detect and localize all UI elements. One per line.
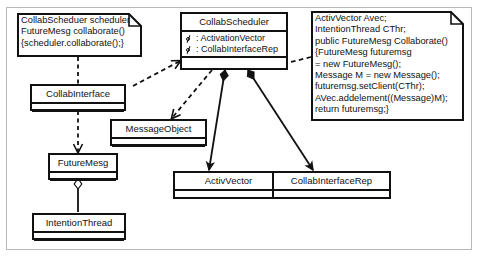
attribute-row: : ActivationVector — [186, 33, 286, 44]
class-attributes-collab-scheduler: : ActivationVector : CollabInterfaceRep — [182, 30, 286, 56]
note-right: ActivVector Avec; IntentionThread CThr; … — [311, 11, 464, 121]
class-attributes-compartment — [50, 171, 116, 179]
class-operations-compartment — [112, 145, 205, 153]
uml-diagram-canvas: CollabScheduer scheduler FutureMesg coll… — [0, 0, 480, 265]
class-box-collab-interface-rep[interactable]: CollabInterfaceRep — [272, 171, 391, 199]
class-attributes-compartment — [175, 189, 282, 197]
class-operations-compartment — [32, 110, 124, 118]
class-operations-compartment — [34, 239, 124, 247]
class-operations-compartment — [182, 56, 286, 69]
note-right-line-7: futuremsg.setClient(CThr); — [315, 81, 460, 92]
class-name-collab-scheduler: CollabScheduler — [182, 14, 286, 30]
attribute-label: : CollabInterfaceRep — [196, 44, 278, 55]
visibility-marker-icon — [186, 35, 193, 43]
note-left-text: CollabScheduer scheduler FutureMesg coll… — [17, 13, 142, 51]
class-attributes-compartment — [32, 102, 124, 110]
class-box-future-mesg[interactable]: FutureMesg — [48, 153, 118, 180]
class-attributes-compartment — [274, 189, 389, 197]
note-right-line-8: AVec.addelement((Message)M); — [315, 93, 460, 104]
note-right-line-2: IntentionThread CThr; — [315, 24, 460, 35]
class-box-activ-vector[interactable]: ActivVector — [173, 171, 284, 199]
note-right-text: ActivVector Avec; IntentionThread CThr; … — [311, 11, 464, 118]
class-operations-compartment — [274, 197, 389, 205]
class-box-collab-interface[interactable]: CollabInterface — [30, 84, 126, 111]
note-left: CollabScheduer scheduler FutureMesg coll… — [17, 13, 142, 57]
class-box-intention-thread[interactable]: IntentionThread — [32, 213, 126, 240]
note-right-line-9: return futuremsg;} — [315, 104, 460, 115]
attribute-row: : CollabInterfaceRep — [186, 44, 286, 55]
note-left-line-1: CollabScheduer scheduler — [21, 15, 138, 26]
class-attributes-compartment — [112, 137, 205, 145]
attribute-label: : ActivationVector — [196, 33, 265, 44]
class-operations-compartment — [50, 179, 116, 187]
class-name-collab-interface: CollabInterface — [32, 86, 124, 102]
class-operations-compartment — [175, 197, 282, 205]
class-name-activ-vector: ActivVector — [175, 173, 282, 189]
note-right-line-1: ActivVector Avec; — [315, 13, 460, 24]
class-box-collab-scheduler[interactable]: CollabScheduler : ActivationVector : Col… — [180, 12, 288, 70]
note-right-line-4: {FutureMesg futuremsg — [315, 47, 460, 58]
class-name-future-mesg: FutureMesg — [50, 155, 116, 171]
note-right-line-5: = new FutureMesg(); — [315, 59, 460, 70]
note-left-line-2: FutureMesg collaborate() — [21, 26, 138, 37]
class-attributes-compartment — [34, 231, 124, 239]
class-name-collab-interface-rep: CollabInterfaceRep — [274, 173, 389, 189]
class-name-intention-thread: IntentionThread — [34, 215, 124, 231]
note-right-line-6: Message M = new Message(); — [315, 70, 460, 81]
class-box-message-object[interactable]: MessageObject — [110, 119, 207, 146]
note-left-line-3: {scheduler.collaborate();} — [21, 38, 138, 49]
note-right-line-3: public FutureMesg Collaborate() — [315, 36, 460, 47]
visibility-marker-icon — [186, 46, 193, 54]
class-name-message-object: MessageObject — [112, 121, 205, 137]
